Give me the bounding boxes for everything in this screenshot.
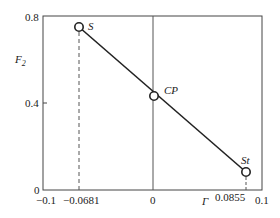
y-axis-label-main: F [15,53,22,65]
annotation-st: St [241,155,250,166]
point-s [75,23,83,31]
x-tick-label-0.0855: 0.0855 [215,192,245,203]
x-tick-label-0.1: 0.1 [255,195,269,206]
y-tick-label-0.8: 0.8 [25,12,39,23]
chart-plot-area [0,0,280,218]
y-axis-label-sub: 2 [22,59,26,68]
y-axis-label: F2 [15,54,26,69]
annotation-cp: CP [164,85,178,96]
x-tick-label-0: 0 [150,195,156,206]
point-st [242,168,250,176]
x-axis-label: Γ [202,196,208,207]
x-tick-label-neg0.0681: −0.0681 [63,195,99,206]
point-cp [150,92,158,100]
x-tick-label-neg0.1: −0.1 [36,195,56,206]
annotation-s: S [88,21,94,32]
data-line [79,27,246,172]
y-tick-label-0.4: 0.4 [25,98,39,109]
